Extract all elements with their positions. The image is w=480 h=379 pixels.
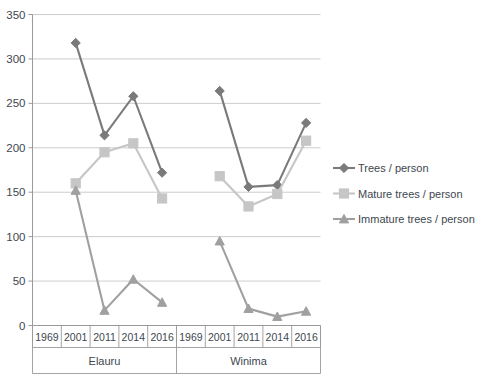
series-line (76, 190, 162, 310)
x-axis-group-label: Elauru (89, 355, 121, 367)
data-point-marker (215, 172, 224, 181)
axis-lines (33, 15, 321, 326)
data-point-marker (158, 194, 167, 203)
y-axis-tick-label: 150 (6, 186, 25, 198)
x-axis-category-label: 2016 (150, 331, 174, 343)
x-axis-category-label: 2016 (294, 331, 318, 343)
y-axis-tick-label: 300 (6, 53, 25, 65)
data-point-marker (215, 236, 224, 245)
series-mature-trees-person (71, 136, 311, 211)
chart-legend: Trees / personMature trees / personImmat… (333, 162, 475, 225)
data-point-marker (100, 148, 109, 157)
x-axis-category-label: 2014 (266, 331, 290, 343)
series-line (220, 241, 306, 317)
legend-item[interactable]: Mature trees / person (333, 188, 463, 200)
data-point-marker (244, 182, 253, 191)
chart-canvas: 050100150200250300350 196920012011201420… (0, 0, 480, 379)
series-immature-trees-person (71, 186, 311, 321)
y-axis-tick-label: 250 (6, 97, 25, 109)
legend-item-label: Immature trees / person (358, 213, 475, 225)
x-axis-category-label: 2001 (64, 331, 88, 343)
x-axis-category-label: 1969 (35, 331, 59, 343)
line-chart: 050100150200250300350 196920012011201420… (0, 0, 480, 379)
y-axis-tick-label: 50 (13, 275, 26, 287)
x-axis-category-label: 2001 (208, 331, 232, 343)
data-point-marker (273, 189, 282, 198)
legend-item-label: Trees / person (358, 162, 429, 174)
y-axis-tickmarks (29, 15, 33, 326)
data-point-marker (129, 139, 138, 148)
legend-item[interactable]: Immature trees / person (333, 213, 475, 225)
gridlines (33, 15, 321, 282)
x-axis-category-label: 2011 (237, 331, 260, 343)
x-axis-category-label: 2014 (122, 331, 146, 343)
y-axis-tick-labels: 050100150200250300350 (6, 9, 25, 332)
data-point-marker (244, 202, 253, 211)
series-trees-person (71, 38, 311, 191)
series-line (76, 143, 162, 198)
data-point-marker (302, 118, 311, 127)
series-line (76, 43, 162, 173)
legend-marker-square-icon (339, 189, 348, 198)
y-axis-tick-label: 350 (6, 9, 25, 21)
legend-item-label: Mature trees / person (358, 188, 463, 200)
data-point-marker (302, 136, 311, 145)
data-point-marker (215, 86, 224, 95)
data-point-marker (244, 304, 253, 313)
x-axis-group-label: Winima (230, 355, 268, 367)
data-point-marker (129, 275, 138, 284)
data-point-marker (158, 168, 167, 177)
x-axis-category-label: 1969 (179, 331, 203, 343)
legend-marker-diamond-icon (339, 163, 348, 172)
x-axis-category-label: 2011 (93, 331, 116, 343)
y-axis-tick-label: 0 (19, 320, 25, 332)
group-labels: ElauruWinima (89, 355, 268, 367)
series-layer (71, 38, 311, 320)
y-axis-tick-label: 200 (6, 142, 25, 154)
legend-item[interactable]: Trees / person (333, 162, 429, 174)
series-line (220, 91, 306, 187)
data-point-marker (71, 38, 80, 47)
y-axis-tick-label: 100 (6, 231, 25, 243)
